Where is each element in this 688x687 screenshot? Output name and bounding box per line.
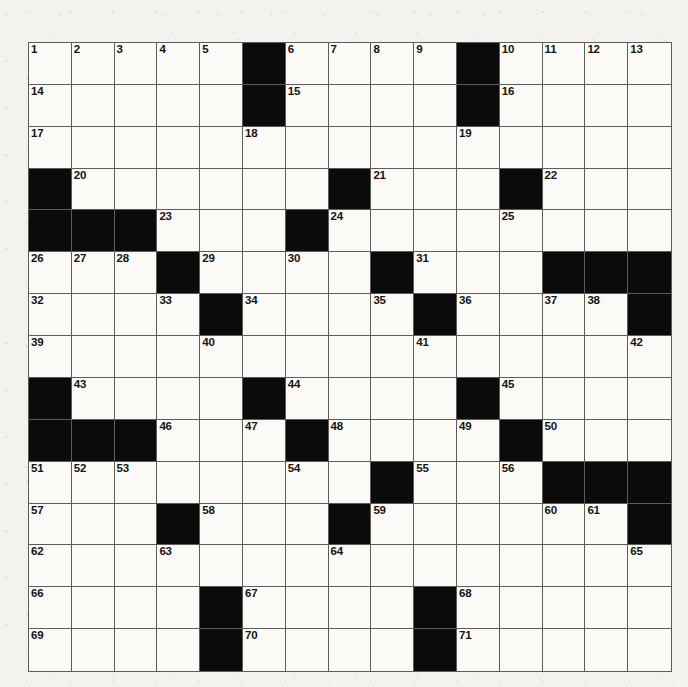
crossword-open-cell[interactable]: 53 xyxy=(115,462,158,504)
crossword-open-cell[interactable] xyxy=(585,169,628,211)
crossword-open-cell[interactable]: 56 xyxy=(500,462,543,504)
crossword-open-cell[interactable] xyxy=(628,629,671,671)
crossword-open-cell[interactable] xyxy=(414,378,457,420)
crossword-open-cell[interactable] xyxy=(157,587,200,629)
crossword-open-cell[interactable] xyxy=(200,420,243,462)
crossword-open-cell[interactable] xyxy=(243,545,286,587)
crossword-open-cell[interactable] xyxy=(157,169,200,211)
crossword-open-cell[interactable]: 7 xyxy=(329,43,372,85)
crossword-open-cell[interactable] xyxy=(200,127,243,169)
crossword-open-cell[interactable] xyxy=(72,587,115,629)
crossword-open-cell[interactable]: 10 xyxy=(500,43,543,85)
crossword-open-cell[interactable] xyxy=(371,378,414,420)
crossword-grid[interactable]: 1234567891011121314151617181920212223242… xyxy=(28,42,672,672)
crossword-open-cell[interactable]: 29 xyxy=(200,252,243,294)
crossword-open-cell[interactable]: 47 xyxy=(243,420,286,462)
crossword-open-cell[interactable] xyxy=(329,252,372,294)
crossword-open-cell[interactable] xyxy=(72,127,115,169)
crossword-open-cell[interactable]: 3 xyxy=(115,43,158,85)
crossword-open-cell[interactable] xyxy=(115,587,158,629)
crossword-open-cell[interactable]: 24 xyxy=(329,210,372,252)
crossword-open-cell[interactable] xyxy=(371,127,414,169)
crossword-open-cell[interactable] xyxy=(243,504,286,546)
crossword-open-cell[interactable]: 37 xyxy=(543,294,586,336)
crossword-open-cell[interactable]: 25 xyxy=(500,210,543,252)
crossword-open-cell[interactable] xyxy=(371,545,414,587)
crossword-open-cell[interactable] xyxy=(628,420,671,462)
crossword-open-cell[interactable] xyxy=(157,336,200,378)
crossword-open-cell[interactable]: 8 xyxy=(371,43,414,85)
crossword-open-cell[interactable]: 20 xyxy=(72,169,115,211)
crossword-open-cell[interactable]: 58 xyxy=(200,504,243,546)
crossword-open-cell[interactable] xyxy=(286,127,329,169)
crossword-open-cell[interactable]: 66 xyxy=(29,587,72,629)
crossword-open-cell[interactable]: 19 xyxy=(457,127,500,169)
crossword-open-cell[interactable] xyxy=(329,462,372,504)
crossword-open-cell[interactable] xyxy=(543,210,586,252)
crossword-open-cell[interactable] xyxy=(585,545,628,587)
crossword-open-cell[interactable] xyxy=(329,85,372,127)
crossword-open-cell[interactable]: 52 xyxy=(72,462,115,504)
crossword-open-cell[interactable] xyxy=(286,169,329,211)
crossword-open-cell[interactable]: 50 xyxy=(543,420,586,462)
crossword-open-cell[interactable]: 57 xyxy=(29,504,72,546)
crossword-open-cell[interactable]: 38 xyxy=(585,294,628,336)
crossword-open-cell[interactable] xyxy=(628,85,671,127)
crossword-open-cell[interactable] xyxy=(243,210,286,252)
crossword-open-cell[interactable] xyxy=(585,587,628,629)
crossword-open-cell[interactable] xyxy=(286,294,329,336)
crossword-open-cell[interactable] xyxy=(115,127,158,169)
crossword-open-cell[interactable] xyxy=(115,629,158,671)
crossword-open-cell[interactable]: 1 xyxy=(29,43,72,85)
crossword-open-cell[interactable] xyxy=(157,629,200,671)
crossword-open-cell[interactable] xyxy=(585,378,628,420)
crossword-open-cell[interactable] xyxy=(457,545,500,587)
crossword-open-cell[interactable] xyxy=(329,294,372,336)
crossword-open-cell[interactable] xyxy=(543,378,586,420)
crossword-open-cell[interactable]: 39 xyxy=(29,336,72,378)
crossword-open-cell[interactable]: 34 xyxy=(243,294,286,336)
crossword-open-cell[interactable] xyxy=(157,378,200,420)
crossword-open-cell[interactable] xyxy=(157,85,200,127)
crossword-open-cell[interactable]: 55 xyxy=(414,462,457,504)
crossword-open-cell[interactable] xyxy=(371,85,414,127)
crossword-open-cell[interactable] xyxy=(286,504,329,546)
crossword-open-cell[interactable] xyxy=(115,378,158,420)
crossword-open-cell[interactable]: 42 xyxy=(628,336,671,378)
crossword-open-cell[interactable]: 63 xyxy=(157,545,200,587)
crossword-open-cell[interactable] xyxy=(200,378,243,420)
crossword-open-cell[interactable] xyxy=(457,462,500,504)
crossword-open-cell[interactable]: 14 xyxy=(29,85,72,127)
crossword-open-cell[interactable]: 46 xyxy=(157,420,200,462)
crossword-open-cell[interactable]: 22 xyxy=(543,169,586,211)
crossword-open-cell[interactable] xyxy=(585,420,628,462)
crossword-open-cell[interactable]: 17 xyxy=(29,127,72,169)
crossword-open-cell[interactable]: 36 xyxy=(457,294,500,336)
crossword-open-cell[interactable] xyxy=(414,127,457,169)
crossword-open-cell[interactable] xyxy=(286,545,329,587)
crossword-open-cell[interactable]: 28 xyxy=(115,252,158,294)
crossword-open-cell[interactable] xyxy=(243,169,286,211)
crossword-open-cell[interactable] xyxy=(243,462,286,504)
crossword-open-cell[interactable] xyxy=(200,85,243,127)
crossword-open-cell[interactable] xyxy=(500,127,543,169)
crossword-open-cell[interactable] xyxy=(500,504,543,546)
crossword-open-cell[interactable]: 16 xyxy=(500,85,543,127)
crossword-open-cell[interactable] xyxy=(457,504,500,546)
crossword-open-cell[interactable] xyxy=(457,169,500,211)
crossword-open-cell[interactable]: 4 xyxy=(157,43,200,85)
crossword-open-cell[interactable] xyxy=(72,85,115,127)
crossword-open-cell[interactable] xyxy=(72,336,115,378)
crossword-open-cell[interactable]: 12 xyxy=(585,43,628,85)
crossword-open-cell[interactable] xyxy=(329,587,372,629)
crossword-open-cell[interactable]: 54 xyxy=(286,462,329,504)
crossword-open-cell[interactable] xyxy=(329,127,372,169)
crossword-open-cell[interactable] xyxy=(414,420,457,462)
crossword-open-cell[interactable] xyxy=(543,587,586,629)
crossword-open-cell[interactable] xyxy=(457,336,500,378)
crossword-open-cell[interactable] xyxy=(371,210,414,252)
crossword-open-cell[interactable] xyxy=(414,545,457,587)
crossword-open-cell[interactable]: 45 xyxy=(500,378,543,420)
crossword-open-cell[interactable]: 15 xyxy=(286,85,329,127)
crossword-open-cell[interactable] xyxy=(500,545,543,587)
